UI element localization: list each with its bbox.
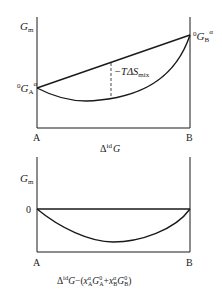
top-x-label-b: B <box>186 132 193 143</box>
bottom-x-label-a: A <box>33 257 41 268</box>
top-y-axis-label: Gm <box>20 20 34 34</box>
bottom-x-label-b: B <box>186 257 193 268</box>
zero-label: 0 <box>26 204 31 215</box>
top-straight-line <box>37 35 190 88</box>
bottom-diagram: Gm 0 A B ΔidG−(xαAG0A+xαBG0B) <box>20 157 193 287</box>
bottom-y-axis-label: Gm <box>20 172 34 186</box>
top-diagram: Gm 0GAα 0GBα −TΔSmix A B ΔidG <box>17 17 213 154</box>
right-point-label: 0GBα <box>193 28 213 44</box>
bottom-mixing-curve <box>37 209 190 242</box>
left-point-label: 0GAα <box>17 80 38 96</box>
entropy-gap-label: −TΔSmix <box>114 66 150 79</box>
top-x-label-a: A <box>33 132 41 143</box>
bottom-caption: ΔidG−(xαAG0A+xαBG0B) <box>57 274 131 287</box>
top-caption: ΔidG <box>100 142 120 154</box>
diagram-canvas: Gm 0GAα 0GBα −TΔSmix A B ΔidG Gm 0 A B Δ… <box>0 0 222 300</box>
